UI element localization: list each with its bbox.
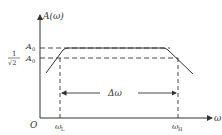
svg-text:L: L	[61, 126, 65, 132]
svg-text:H: H	[178, 126, 183, 132]
svg-text:1: 1	[12, 50, 16, 58]
svg-text:A: A	[25, 54, 32, 63]
x-axis-label: ω	[214, 113, 222, 123]
svg-text:A: A	[25, 42, 32, 51]
origin-label: O	[30, 120, 38, 130]
a0-label: A 0	[25, 42, 35, 52]
svg-text:0: 0	[32, 46, 35, 52]
svg-text:√2: √2	[8, 59, 16, 67]
response-curve	[46, 48, 193, 74]
y-axis-label: A(ω)	[42, 11, 64, 21]
frequency-response-diagram: A(ω) ω O A 0 1 √2 A 0 Δω ω L ω H	[0, 0, 222, 135]
bandwidth-label: Δω	[107, 88, 122, 98]
svg-text:0: 0	[32, 58, 35, 64]
half-power-label: 1 √2 A 0	[8, 50, 35, 67]
omega-h-label: ω H	[172, 122, 183, 132]
omega-l-label: ω L	[55, 122, 65, 132]
